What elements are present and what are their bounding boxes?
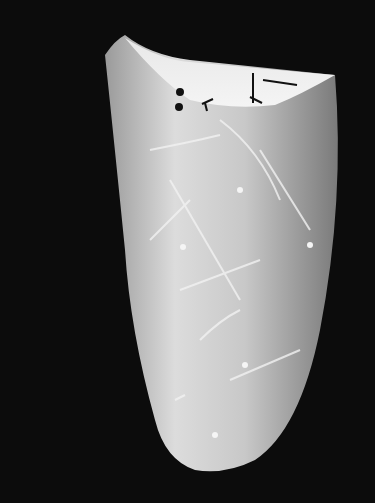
- relief-dot: [212, 432, 218, 438]
- vessel-photo: [0, 0, 384, 503]
- relief-dot: [307, 242, 313, 248]
- mark-dot: [176, 104, 182, 110]
- mark-dot: [177, 89, 183, 95]
- relief-dot: [180, 244, 186, 250]
- relief-dot: [237, 187, 243, 193]
- relief-dot: [242, 362, 248, 368]
